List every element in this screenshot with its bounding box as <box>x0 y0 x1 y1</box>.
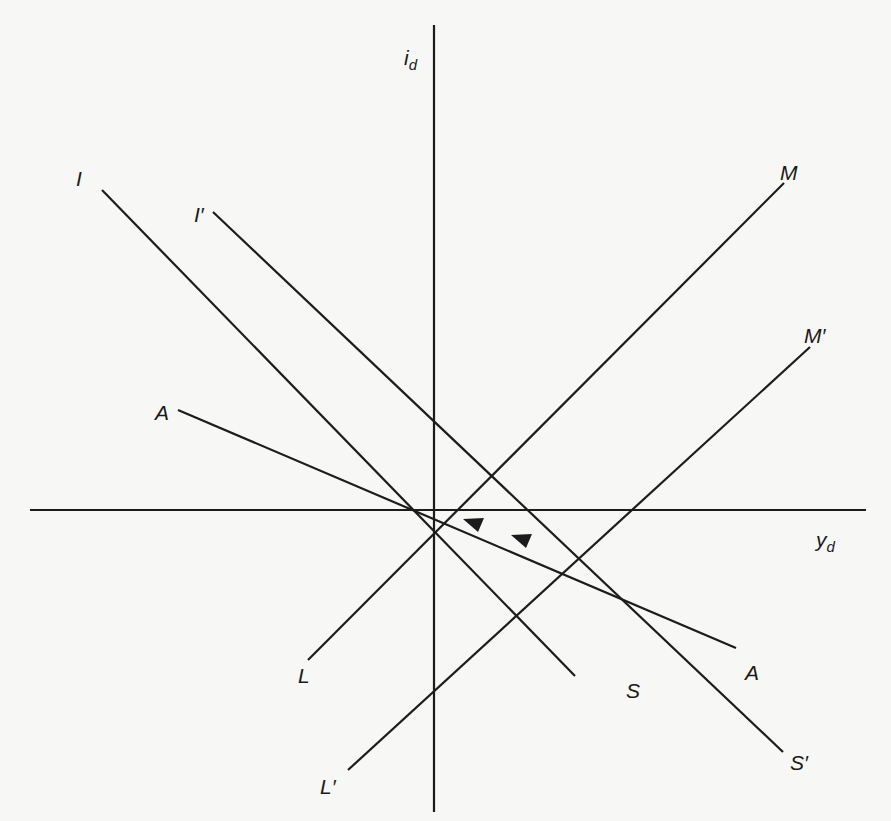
label-L: L <box>298 664 310 687</box>
diagram-svg: id yd I I′ M M′ A A L L′ S S′ <box>0 0 891 821</box>
line-I-S <box>102 190 575 676</box>
line-M-prime-L-prime <box>348 347 810 770</box>
arrowhead-icon <box>511 534 532 548</box>
diagram-canvas: id yd I I′ M M′ A A L L′ S S′ <box>0 0 891 821</box>
label-M: M <box>780 161 798 184</box>
line-A-A <box>178 410 736 648</box>
label-S-prime: S′ <box>790 751 809 774</box>
label-I-prime: I′ <box>194 203 205 226</box>
arrowhead-icon <box>463 518 484 532</box>
label-yd: yd <box>814 528 836 555</box>
label-M-prime: M′ <box>804 324 826 347</box>
label-A-left: A <box>153 401 169 424</box>
label-A-right: A <box>743 661 759 684</box>
label-L-prime: L′ <box>320 775 337 798</box>
label-id: id <box>404 46 418 73</box>
label-I: I <box>76 167 82 190</box>
label-S: S <box>626 679 640 702</box>
